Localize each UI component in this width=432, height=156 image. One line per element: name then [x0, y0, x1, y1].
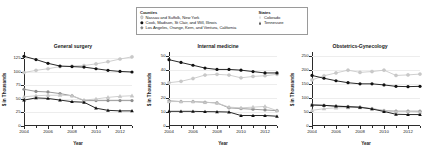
data-point: [94, 67, 97, 70]
data-point: [394, 74, 397, 77]
data-point: [106, 99, 109, 102]
y-axis-tick-label: 50: [304, 110, 309, 114]
data-point: [118, 70, 121, 73]
x-axis-tick: [60, 126, 61, 128]
legend-group-counties: Counties Nassau and Suffolk, New York Co…: [137, 8, 256, 34]
data-point: [94, 62, 97, 65]
panel-title: Internal medicine: [145, 43, 291, 49]
data-point: [130, 99, 133, 102]
data-point: [239, 69, 242, 72]
y-axis-title: $ in Thousands: [1, 52, 9, 126]
data-point: [334, 79, 337, 82]
x-axis-title: Year: [24, 141, 132, 146]
x-axis-tick: [181, 126, 182, 128]
data-point: [118, 99, 121, 102]
y-axis-tick-label: 75: [16, 83, 21, 87]
panel-title: Obstetrics-Gynecology: [288, 43, 432, 49]
x-axis-tick-label: 2008: [212, 130, 222, 134]
plot-area: 025507510012520042006200820102012: [24, 52, 132, 126]
data-point: [251, 75, 254, 78]
data-point: [106, 69, 109, 72]
data-point: [118, 57, 121, 60]
y-axis-tick-label: 200: [301, 68, 308, 72]
x-axis-tick: [396, 126, 397, 128]
triangle-light-icon: [258, 15, 262, 19]
x-axis-tick: [420, 126, 421, 128]
series-layer: [24, 52, 132, 126]
x-axis-tick: [108, 126, 109, 128]
data-point: [418, 72, 421, 75]
chart-legend: Counties Nassau and Suffolk, New York Co…: [136, 7, 308, 35]
data-point: [370, 82, 373, 85]
series-triangle-light: [310, 106, 422, 114]
data-point: [203, 73, 206, 76]
data-point: [227, 68, 230, 71]
data-point: [22, 71, 25, 74]
series-circle-light: [167, 73, 278, 85]
x-axis-title: Year: [312, 141, 420, 146]
data-point: [310, 78, 313, 81]
circle-filled-icon: [140, 21, 144, 25]
data-point: [130, 70, 133, 73]
y-axis-tick-label: 20: [161, 96, 166, 100]
data-point: [34, 58, 37, 61]
x-axis-tick: [372, 126, 373, 128]
legend-label: Tennessee: [264, 20, 283, 25]
series-circle-light: [310, 69, 421, 82]
plot-area: 05010015020025020042006200820102012: [312, 52, 420, 126]
data-point: [46, 62, 49, 65]
data-point: [358, 82, 361, 85]
data-point: [203, 66, 206, 69]
series-circle-filled: [310, 74, 421, 88]
data-point: [263, 71, 266, 74]
data-point: [191, 64, 194, 67]
y-axis-tick-label: 100: [13, 70, 20, 74]
y-axis-tick-label: 150: [301, 82, 308, 86]
plot-area: 0102030405020042006200820102012: [169, 52, 277, 126]
y-axis-title: $ in Thousands: [289, 52, 297, 126]
x-axis-tick-label: 2008: [355, 130, 365, 134]
data-point: [106, 60, 109, 63]
series-triangle-filled: [167, 110, 279, 118]
data-point: [310, 74, 313, 77]
data-point: [394, 85, 397, 88]
y-axis-title: $ in Thousands: [146, 52, 154, 126]
x-axis-tick: [84, 126, 85, 128]
data-point: [382, 83, 385, 86]
data-point: [167, 81, 170, 84]
y-axis-tick-label: 250: [301, 54, 308, 58]
data-point: [334, 71, 337, 74]
data-point: [346, 81, 349, 84]
y-axis-tick-label: 50: [161, 54, 166, 58]
data-point: [358, 71, 361, 74]
x-axis-tick-label: 2004: [19, 130, 29, 134]
data-point: [418, 85, 421, 88]
data-point: [70, 65, 73, 68]
x-axis-title: Year: [169, 141, 277, 146]
legend-item-tennessee: Tennessee: [258, 20, 307, 25]
legend-item-losangeles-california: Los Angeles, Orange, Kern, and Ventura, …: [140, 25, 256, 30]
x-axis-tick: [324, 126, 325, 128]
x-axis-tick-label: 2012: [115, 130, 125, 134]
data-point: [239, 76, 242, 79]
x-axis-tick-label: 2008: [67, 130, 77, 134]
data-point: [406, 73, 409, 76]
y-axis-tick-label: 40: [161, 68, 166, 72]
data-point: [22, 88, 25, 91]
data-point: [167, 58, 170, 61]
data-point: [322, 77, 325, 80]
panel-title: General surgery: [0, 43, 146, 49]
x-axis-tick-label: 2006: [188, 130, 198, 134]
series-layer: [169, 52, 277, 126]
series-circle-filled: [22, 55, 133, 74]
data-point: [346, 69, 349, 72]
x-axis-tick-label: 2012: [403, 130, 413, 134]
data-point: [263, 108, 266, 111]
data-point: [179, 61, 182, 64]
data-point: [370, 70, 373, 73]
x-axis-tick-label: 2010: [236, 130, 246, 134]
y-axis-tick-label: 125: [13, 56, 20, 60]
series-circle-gray: [22, 88, 133, 103]
y-axis-tick-label: 0: [18, 124, 20, 128]
circle-gray-icon: [140, 26, 144, 30]
